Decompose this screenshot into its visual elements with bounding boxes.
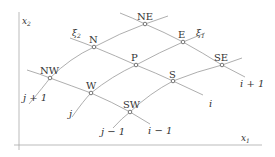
node-N: [92, 45, 96, 49]
label-j-plus-1: j + 1: [21, 92, 47, 103]
cartesian-axes: [14, 12, 262, 150]
grid-line-j-minus-1: [113, 58, 242, 128]
label-S: S: [169, 69, 176, 80]
xi1-label: ξ1: [196, 28, 205, 39]
y-axis-label: x2: [22, 16, 31, 27]
node-W: [89, 91, 93, 95]
label-P: P: [131, 52, 138, 63]
node-E: [181, 40, 185, 44]
label-i-plus-1: i + 1: [240, 78, 264, 89]
label-N: N: [89, 34, 98, 45]
grid-lines-j: [29, 16, 242, 128]
label-NE: NE: [137, 11, 153, 22]
node-SE: [220, 63, 224, 67]
x-axis-label: x1: [241, 133, 250, 144]
label-i: i: [209, 98, 212, 109]
node-P: [134, 63, 138, 67]
node-SW: [128, 110, 132, 114]
label-NW: NW: [40, 65, 60, 76]
label-j-minus-1: j − 1: [99, 126, 125, 137]
label-E: E: [178, 29, 185, 40]
label-SW: SW: [123, 99, 141, 110]
label-i-minus-1: i − 1: [148, 125, 172, 136]
node-NE: [143, 22, 147, 26]
stencil-diagram: x2 x1 NE N E P NW SE W S SW ξ2 ξ1: [0, 0, 275, 157]
grid-line-i-plus-1: [120, 13, 245, 77]
label-W: W: [86, 80, 97, 91]
label-j: j: [67, 108, 72, 119]
xi2-label: ξ2: [72, 28, 81, 39]
grid-line-j-plus-1: [29, 16, 168, 104]
node-NW: [48, 76, 52, 80]
label-SE: SE: [214, 52, 228, 63]
